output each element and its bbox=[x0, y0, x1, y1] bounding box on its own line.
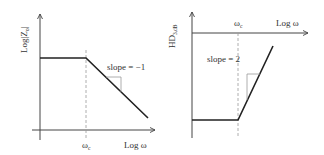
left-plot-impedance: Log|Zo| slope = −1 ωc Log ω bbox=[19, 14, 155, 151]
right-plot-distortion: HD3,dB ωc Log ω slope = 2 bbox=[167, 12, 308, 138]
right-y-axis-label: HD3,dB bbox=[167, 24, 178, 48]
left-y-axis-label: Log|Zo| bbox=[19, 26, 30, 53]
right-corner-frequency-label: ωc bbox=[234, 18, 243, 29]
right-x-axis-label: Log ω bbox=[276, 18, 299, 28]
left-x-axis-label: Log ω bbox=[124, 140, 147, 150]
left-corner-frequency-label: ωc bbox=[82, 140, 91, 151]
bode-diagrams: Log|Zo| slope = −1 ωc Log ω HD3,dB ωc Lo… bbox=[0, 0, 324, 155]
right-slope-label: slope = 2 bbox=[207, 54, 240, 64]
left-slope-label: slope = −1 bbox=[107, 62, 145, 72]
